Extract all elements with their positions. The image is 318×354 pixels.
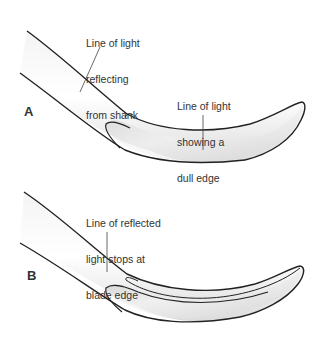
callout-blade-edge: Line of reflected light stops at blade e… bbox=[86, 193, 161, 313]
callout-dull-edge: Line of light showing a dull edge bbox=[177, 76, 231, 196]
callout-line: blade edge bbox=[86, 289, 161, 301]
callout-line: Line of reflected bbox=[86, 217, 161, 229]
callout-line: from shank bbox=[86, 109, 140, 121]
callout-line: Line of light bbox=[177, 100, 231, 112]
callout-line: Line of light bbox=[86, 37, 140, 49]
callout-shank-reflection: Line of light reflecting from shank bbox=[86, 13, 140, 133]
panel-a-gouge bbox=[20, 31, 305, 163]
callout-line: dull edge bbox=[177, 172, 231, 184]
panel-label-a: A bbox=[24, 104, 33, 119]
callout-line: showing a bbox=[177, 136, 231, 148]
panel-label-b: B bbox=[27, 268, 36, 283]
panel-b-gouge bbox=[20, 192, 304, 322]
callout-line: reflecting bbox=[86, 73, 140, 85]
callout-line: light stops at bbox=[86, 253, 161, 265]
